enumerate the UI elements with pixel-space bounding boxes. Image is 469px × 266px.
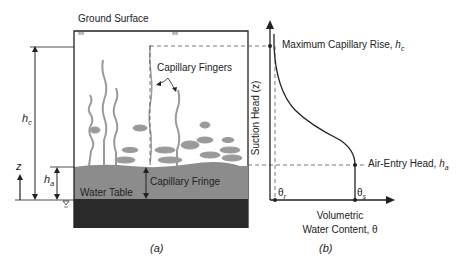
air-entry-head-subscript: a <box>445 164 449 171</box>
svg-text:ʬʬ: ʬʬ <box>172 30 178 36</box>
x-axis-label-line1: Volumetric <box>300 211 380 221</box>
soil-column: ʬʬ ʬʬ <box>74 30 248 228</box>
theta-r-subscript: r <box>284 193 286 200</box>
ground-surface-label: Ground Surface <box>78 14 149 24</box>
theta-s-subscript: s <box>363 193 367 200</box>
h-a-subscript: a <box>50 180 54 187</box>
h-c-subscript: c <box>28 119 32 126</box>
svg-text:ʬʬ: ʬʬ <box>78 30 84 36</box>
capillary-fingers-label: Capillary Fingers <box>157 63 232 73</box>
caption-b: (b) <box>319 243 332 254</box>
air-entry-head-label: Air-Entry Head, ha <box>368 159 449 171</box>
x-axis-label-line2: Water Content, θ <box>285 225 395 235</box>
h-a-label: ha <box>44 174 54 187</box>
max-capillary-rise-label: Maximum Capillary Rise, hc <box>282 40 404 52</box>
max-capillary-rise-text: Maximum Capillary Rise, <box>282 39 395 50</box>
theta-r-label: θr <box>278 188 286 200</box>
capillary-fringe-label: Capillary Fringe <box>150 177 220 187</box>
max-capillary-rise-subscript: c <box>401 45 405 52</box>
saturated-zone <box>74 199 240 228</box>
water-table-label: Water Table <box>80 188 133 198</box>
caption-a: (a) <box>150 243 163 254</box>
y-axis-label: Suction Head (z) <box>251 68 261 168</box>
theta-s-label: θs <box>357 188 366 200</box>
h-c-label: hc <box>22 113 32 126</box>
air-entry-head-text: Air-Entry Head, <box>368 158 439 169</box>
z-label: z <box>16 161 22 172</box>
